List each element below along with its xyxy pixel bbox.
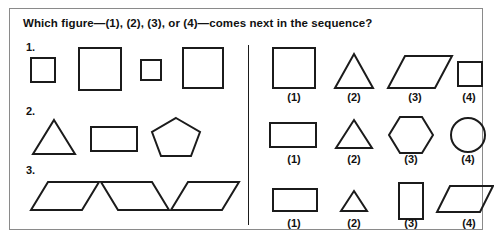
option-row-2-choice-2-triangle[interactable]: [335, 119, 373, 149]
option-row-1-label-4[interactable]: (4): [454, 91, 484, 103]
option-row-3-label-3[interactable]: (3): [396, 217, 426, 229]
option-row-2-label-3[interactable]: (3): [396, 153, 426, 165]
sequence-number-2: 2.: [26, 105, 35, 117]
sequence-1-small-square-b: [140, 59, 162, 81]
sequence-3-parallelogram-right-b: [170, 181, 240, 211]
option-row-1-label-1[interactable]: (1): [279, 91, 309, 103]
option-row-2-label-4[interactable]: (4): [453, 153, 483, 165]
option-row-1-choice-4-small-square[interactable]: [457, 61, 483, 87]
sequence-3-parallelogram-left: [100, 181, 170, 211]
sequence-panel: 1. 2. 3.: [10, 9, 248, 231]
sequence-2-pentagon: [151, 117, 201, 157]
sequence-1-large-square-b: [182, 47, 224, 89]
option-row-1-label-2[interactable]: (2): [339, 91, 369, 103]
option-row-2-label-1[interactable]: (1): [279, 153, 309, 165]
option-row-3-choice-4-parallelogram[interactable]: [436, 185, 494, 213]
sequence-number-3: 3.: [26, 164, 35, 176]
option-row-3-choice-2-small-triangle[interactable]: [340, 190, 368, 212]
option-row-1-choice-2-triangle[interactable]: [334, 53, 374, 89]
puzzle-card: Which figure—(1), (2), (3), or (4)—comes…: [9, 8, 483, 230]
option-row-3-label-1[interactable]: (1): [279, 217, 309, 229]
option-row-3-label-2[interactable]: (2): [339, 217, 369, 229]
option-row-1-choice-1-large-square[interactable]: [272, 47, 316, 89]
option-row-1-label-3[interactable]: (3): [400, 91, 430, 103]
option-row-2-choice-3-hexagon[interactable]: [388, 116, 434, 154]
option-row-1-choice-3-parallelogram[interactable]: [387, 55, 453, 89]
option-row-2-label-2[interactable]: (2): [339, 153, 369, 165]
sequence-1-large-square-a: [78, 47, 122, 91]
options-panel: (1) (2) (3) (4) (1) (2) (3) (4): [248, 9, 484, 231]
sequence-number-1: 1.: [26, 41, 35, 53]
option-row-2-choice-4-circle[interactable]: [450, 117, 486, 153]
sequence-2-rectangle: [90, 126, 138, 152]
sequence-1-small-square-a: [30, 57, 56, 83]
option-row-3-choice-1-wide-rectangle[interactable]: [272, 188, 318, 212]
sequence-3-parallelogram-right-a: [30, 181, 100, 211]
option-row-3-choice-3-tall-rectangle[interactable]: [398, 182, 424, 220]
option-row-3-label-4[interactable]: (4): [454, 217, 484, 229]
sequence-2-triangle: [32, 119, 76, 155]
option-row-2-choice-1-rectangle[interactable]: [269, 122, 317, 148]
